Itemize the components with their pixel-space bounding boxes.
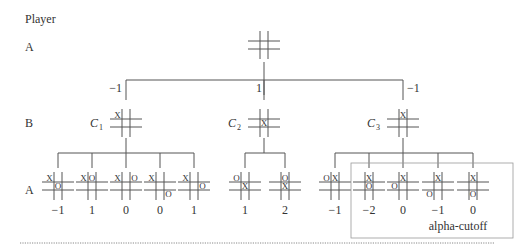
leaf-board: XO xyxy=(42,172,74,200)
x-mark-icon: X xyxy=(261,118,268,128)
leaf-board: XO xyxy=(144,172,176,200)
o-mark-icon: O xyxy=(165,189,172,199)
leaf-board: XO xyxy=(387,172,419,200)
leaf-value: 2 xyxy=(282,203,288,217)
x-mark-icon: X xyxy=(282,181,289,191)
level-player-label: B xyxy=(25,116,33,130)
child-board-2: X xyxy=(248,109,280,137)
child-board-1: X xyxy=(110,109,142,137)
x-mark-icon: X xyxy=(400,110,407,120)
leaf-board: XO xyxy=(457,172,489,200)
o-mark-icon: O xyxy=(89,173,96,183)
leaf-value: 0 xyxy=(400,203,406,217)
x-mark-icon: X xyxy=(435,173,442,183)
leaf-value: 0 xyxy=(123,203,129,217)
child-node-subscript: 2 xyxy=(237,123,241,132)
leaf-board: XO xyxy=(422,172,454,200)
leaf-board: XO xyxy=(178,172,210,200)
o-mark-icon: O xyxy=(55,181,62,191)
child-node-label: C xyxy=(228,116,237,130)
o-mark-icon: O xyxy=(366,181,373,191)
x-mark-icon: X xyxy=(114,110,121,120)
minimax-value: −1 xyxy=(109,81,122,95)
leaf-value: 0 xyxy=(470,203,476,217)
child-node-subscript: 1 xyxy=(99,123,103,132)
o-mark-icon: O xyxy=(391,181,398,191)
minimax-value: 1 xyxy=(256,81,262,95)
root-board xyxy=(248,31,280,59)
x-mark-icon: X xyxy=(470,173,477,183)
o-mark-icon: O xyxy=(470,189,477,199)
x-mark-icon: X xyxy=(46,173,53,183)
leaf-value: −1 xyxy=(329,203,342,217)
o-mark-icon: O xyxy=(199,181,206,191)
o-mark-icon: O xyxy=(323,173,330,183)
leaf-value: 1 xyxy=(89,203,95,217)
leaf-board: OX xyxy=(319,172,351,200)
x-mark-icon: X xyxy=(400,173,407,183)
leaf-value: −1 xyxy=(432,203,445,217)
x-mark-icon: X xyxy=(332,173,339,183)
child-node-label: C xyxy=(90,116,99,130)
leaf-value: 1 xyxy=(191,203,197,217)
x-mark-icon: X xyxy=(80,173,87,183)
leaf-value: −2 xyxy=(363,203,376,217)
leaf-board: OX xyxy=(269,172,301,200)
minimax-value: −1 xyxy=(407,81,420,95)
o-mark-icon: O xyxy=(426,189,433,199)
leaf-value: −1 xyxy=(52,203,65,217)
x-mark-icon: X xyxy=(182,173,189,183)
boards: XXXXOXOXOXOXOOXOXOXXOXOXOXO xyxy=(42,31,489,200)
o-mark-icon: O xyxy=(131,173,138,183)
leaf-board: XO xyxy=(353,172,385,200)
leaf-board: XO xyxy=(110,172,142,200)
level-player-label: A xyxy=(25,183,34,197)
x-mark-icon: X xyxy=(114,173,121,183)
leaf-value: 1 xyxy=(242,203,248,217)
player-column-header: Player xyxy=(25,12,56,26)
x-mark-icon: X xyxy=(148,173,155,183)
leaf-board: XO xyxy=(76,172,108,200)
child-node-label: C xyxy=(367,116,376,130)
leaf-value: 0 xyxy=(157,203,163,217)
o-mark-icon: O xyxy=(233,173,240,183)
level-player-label: A xyxy=(25,40,34,54)
child-board-3: X xyxy=(387,109,419,137)
child-node-subscript: 3 xyxy=(376,123,380,132)
minimax-game-tree: Player A B A XXXXOXOXOXOXOOXOXOXXOXOXOXO… xyxy=(0,0,515,251)
alpha-cutoff-label: alpha-cutoff xyxy=(429,219,487,233)
leaf-board: OX xyxy=(229,172,261,200)
x-mark-icon: X xyxy=(242,181,249,191)
